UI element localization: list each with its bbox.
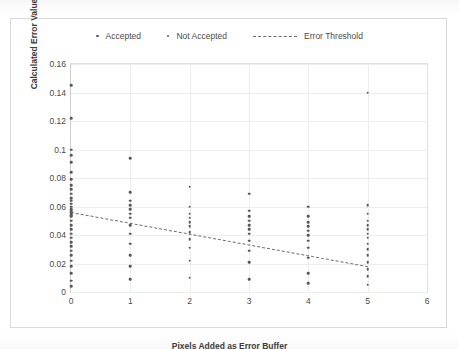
y-axis-tick-label: 0.12 xyxy=(49,116,66,126)
scatter-point xyxy=(188,221,191,224)
scatter-point xyxy=(248,219,251,222)
scatter-point xyxy=(129,232,132,235)
scatter-point xyxy=(307,282,310,285)
scatter-point xyxy=(188,212,191,215)
scatter-point xyxy=(70,117,73,120)
threshold-line-icon xyxy=(253,36,297,37)
scatter-point xyxy=(248,239,251,242)
scatter-point xyxy=(307,234,310,237)
scatter-point xyxy=(248,249,251,252)
scatter-point xyxy=(70,265,73,268)
scatter-point xyxy=(129,224,132,227)
gridline-vertical xyxy=(368,64,369,292)
scatter-point xyxy=(70,259,73,262)
scatter-point xyxy=(70,184,73,187)
scatter-point xyxy=(366,204,369,207)
scatter-point xyxy=(366,232,369,235)
scatter-point xyxy=(188,217,191,220)
scatter-point xyxy=(129,212,132,215)
scatter-point xyxy=(366,91,369,94)
scatter-point xyxy=(366,275,369,278)
scatter-point xyxy=(248,209,251,212)
x-axis-tick-label: 0 xyxy=(69,296,74,306)
scatter-point xyxy=(366,254,369,257)
scatter-point xyxy=(366,284,369,287)
scatter-point xyxy=(307,225,310,228)
x-axis-tick-label: 1 xyxy=(128,296,133,306)
gridline-vertical xyxy=(190,64,191,292)
scatter-point xyxy=(70,154,73,157)
scatter-point xyxy=(70,254,73,257)
gridline-vertical xyxy=(249,64,250,292)
scatter-point xyxy=(129,191,132,194)
x-axis-tick-label: 3 xyxy=(247,296,252,306)
scatter-point xyxy=(307,247,310,250)
y-axis-tick-label: 0 xyxy=(61,287,66,297)
scatter-point xyxy=(366,242,369,245)
y-axis-tick-label: 0.06 xyxy=(49,202,66,212)
y-axis-tick-label: 0.1 xyxy=(54,145,66,155)
scatter-point xyxy=(70,171,73,174)
scatter-point xyxy=(188,185,191,188)
scatter-point xyxy=(129,200,132,203)
scatter-point xyxy=(188,276,191,279)
scatter-point xyxy=(307,272,310,275)
x-axis-tick-label: 5 xyxy=(365,296,370,306)
scatter-point xyxy=(70,241,73,244)
scatter-point xyxy=(248,232,251,235)
x-axis-title: Pixels Added as Error Buffer xyxy=(11,341,448,349)
scatter-point xyxy=(307,205,310,208)
gridline-vertical xyxy=(130,64,131,292)
scatter-point xyxy=(248,278,251,281)
scatter-point xyxy=(188,225,191,228)
scatter-point xyxy=(70,279,73,282)
scatter-point xyxy=(248,224,251,227)
scatter-point xyxy=(129,242,132,245)
scatter-point xyxy=(70,237,73,240)
legend-label-error-threshold: Error Threshold xyxy=(304,31,363,41)
scatter-point xyxy=(129,254,132,257)
not-accepted-marker-icon xyxy=(167,35,170,38)
y-axis-tick-label: 0.04 xyxy=(49,230,66,240)
y-axis-tick-label: 0.08 xyxy=(49,173,66,183)
y-axis-tick-label: 0.16 xyxy=(49,59,66,69)
scatter-point xyxy=(70,148,73,151)
legend-item-not-accepted: Not Accepted xyxy=(167,31,227,41)
scatter-point xyxy=(248,228,251,231)
scatter-point xyxy=(70,178,73,181)
scatter-point xyxy=(129,278,132,281)
scatter-point xyxy=(188,231,191,234)
scatter-point xyxy=(70,215,73,218)
scatter-point xyxy=(307,257,310,260)
scatter-point xyxy=(366,261,369,264)
legend-item-error-threshold: Error Threshold xyxy=(253,31,363,41)
scatter-point xyxy=(70,272,73,275)
scatter-point xyxy=(188,259,191,262)
scatter-point xyxy=(248,192,251,195)
scatter-point xyxy=(70,219,73,222)
error-threshold-line xyxy=(71,212,368,267)
scatter-point xyxy=(366,219,369,222)
scatter-point xyxy=(248,261,251,264)
scatter-point xyxy=(70,232,73,235)
scatter-point xyxy=(366,224,369,227)
scatter-point xyxy=(70,161,73,164)
scatter-point xyxy=(366,212,369,215)
chart-container: Accepted Not Accepted Error Threshold Ca… xyxy=(10,18,447,328)
scatter-point xyxy=(366,268,369,271)
gridline-horizontal xyxy=(71,292,427,293)
legend-label-not-accepted: Not Accepted xyxy=(176,31,227,41)
accepted-marker-icon xyxy=(96,35,99,38)
plot-area: 00.020.040.060.080.10.120.140.160123456 xyxy=(70,63,428,293)
scatter-point xyxy=(307,221,310,224)
legend-label-accepted: Accepted xyxy=(106,31,141,41)
y-axis-title: Calculated Error Value xyxy=(29,0,39,109)
scatter-point xyxy=(70,249,73,252)
scatter-point xyxy=(70,84,73,87)
scatter-point xyxy=(70,224,73,227)
scatter-point xyxy=(188,205,191,208)
scatter-point xyxy=(70,228,73,231)
scatter-point xyxy=(248,215,251,218)
scatter-point xyxy=(129,157,132,160)
x-axis-tick-label: 2 xyxy=(187,296,192,306)
